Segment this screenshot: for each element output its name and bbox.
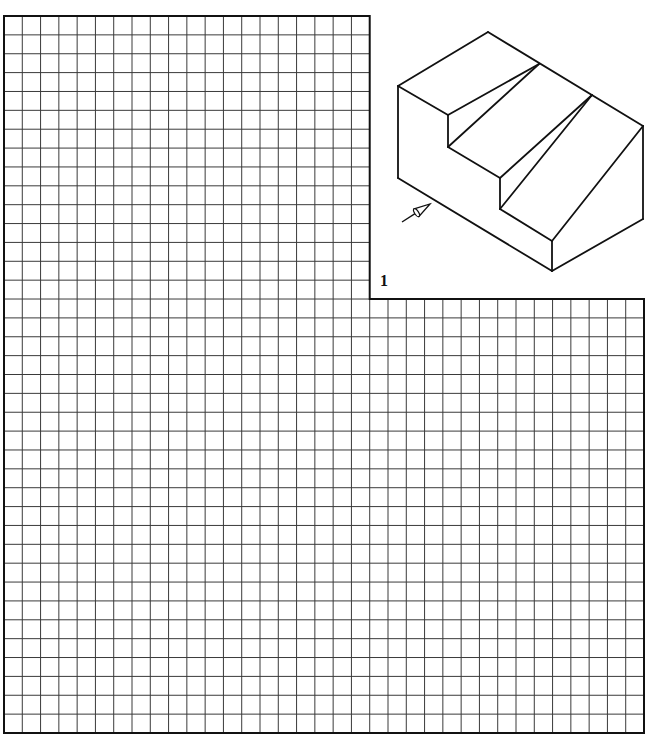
sketch-grid bbox=[4, 16, 644, 733]
isometric-drawing bbox=[398, 32, 643, 271]
worksheet bbox=[0, 0, 648, 739]
figure-number: 1 bbox=[380, 273, 388, 289]
view-direction-arrow-icon bbox=[402, 204, 430, 222]
